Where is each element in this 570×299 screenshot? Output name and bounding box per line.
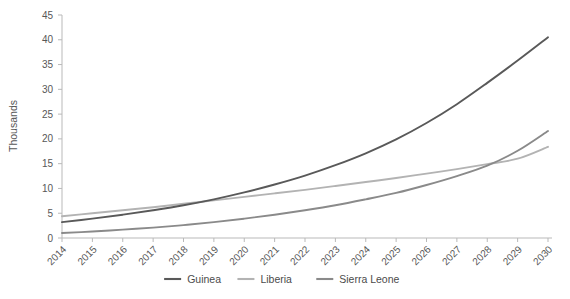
x-tick-label: 2020 [227,243,251,267]
series-line-guinea [62,37,548,222]
x-tick-label: 2024 [349,243,373,267]
y-tick-label: 20 [42,133,54,144]
y-tick-label: 25 [42,109,54,120]
chart-legend: GuineaLiberiaSierra Leone [164,273,399,285]
x-tick-label: 2016 [106,243,130,267]
y-tick-label: 40 [42,34,54,45]
series-lines [62,37,548,233]
x-tick-label: 2028 [470,243,494,267]
x-tick-label: 2026 [409,243,433,267]
legend-label-liberia: Liberia [260,273,292,285]
y-axis-title-label: Thousands [7,100,19,152]
y-tick-label: 35 [42,59,54,70]
x-tick-label: 2025 [379,243,403,267]
y-tick-label: 15 [42,158,54,169]
series-line-sierra-leone [62,131,548,233]
x-tick-label: 2014 [45,243,69,267]
y-tick-label: 45 [42,10,54,21]
x-tick-label: 2023 [318,243,342,267]
x-tick-label: 2029 [501,243,525,267]
x-tick-label: 2018 [166,243,190,267]
legend-label-sierra-leone: Sierra Leone [339,273,399,285]
series-line-liberia [62,147,548,216]
x-tick-label: 2022 [288,243,312,267]
x-tick-label: 2030 [531,243,555,267]
line-chart: 051015202530354045 201420152016201720182… [0,0,570,299]
y-axis: 051015202530354045 [42,10,62,244]
x-tick-label: 2017 [136,243,160,267]
legend-label-guinea: Guinea [187,273,221,285]
x-tick-label: 2019 [197,243,221,267]
x-axis: 2014201520162017201820192020202120222023… [45,238,555,267]
y-tick-label: 30 [42,84,54,95]
x-tick-label: 2027 [440,243,464,267]
y-axis-title: Thousands [7,100,19,152]
y-tick-label: 5 [47,208,53,219]
chart-canvas: 051015202530354045 201420152016201720182… [0,0,570,299]
y-tick-label: 10 [42,183,54,194]
x-tick-label: 2015 [75,243,99,267]
x-tick-label: 2021 [258,243,282,267]
y-tick-label: 0 [47,233,53,244]
